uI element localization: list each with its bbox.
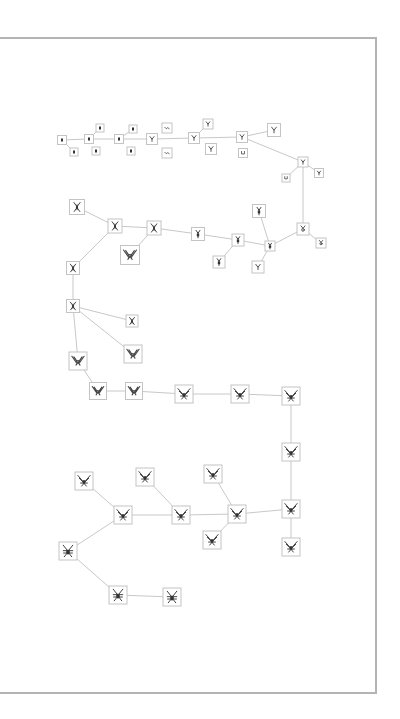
tree-node-spider[interactable]: [108, 219, 122, 233]
tree-node-bug[interactable]: [75, 472, 93, 490]
tree-node-wings[interactable]: [90, 383, 107, 400]
tree-node-stick[interactable]: [192, 228, 205, 241]
tree-node-dot[interactable]: [70, 148, 78, 156]
tree-node-dot[interactable]: [85, 135, 94, 144]
tree-node-wave[interactable]: [162, 123, 172, 133]
tree-node-dot[interactable]: [92, 147, 100, 155]
tree-node-bug[interactable]: [136, 468, 154, 486]
tree-node-dot[interactable]: [58, 136, 67, 145]
tree-node-dot[interactable]: [115, 135, 124, 144]
tree-node-stick[interactable]: [253, 205, 266, 218]
tree-node-y[interactable]: [237, 132, 248, 143]
tree-node-wings[interactable]: [121, 246, 140, 265]
tree-node-bug[interactable]: [204, 465, 222, 483]
creature-icon: [88, 138, 90, 141]
tree-edge: [194, 137, 242, 138]
tree-node-y[interactable]: [206, 144, 217, 155]
tree-node-y[interactable]: [315, 169, 324, 178]
node-box: [282, 174, 290, 182]
creature-icon: [61, 139, 63, 142]
tree-node-wings[interactable]: [126, 383, 143, 400]
tree-node-dot[interactable]: [129, 125, 137, 133]
node-box: [90, 383, 107, 400]
tree-node-wings[interactable]: [69, 352, 87, 370]
tree-node-bug[interactable]: [282, 538, 300, 556]
tree-node-beetle[interactable]: [163, 588, 181, 606]
tree-node-y[interactable]: [189, 133, 200, 144]
tree-node-y[interactable]: [203, 119, 213, 129]
tree-node-beetle[interactable]: [109, 586, 127, 604]
creature-icon: [73, 151, 75, 154]
node-box: [69, 352, 87, 370]
tree-node-y[interactable]: [147, 134, 158, 145]
tree-node-dot[interactable]: [127, 147, 135, 155]
tree-node-stick[interactable]: [232, 234, 244, 246]
tree-node-ring[interactable]: [297, 223, 309, 235]
tree-node-bug[interactable]: [203, 531, 221, 549]
tree-node-u[interactable]: [282, 174, 290, 182]
tree-node-beetle[interactable]: [59, 542, 77, 560]
creature-icon: [118, 138, 120, 141]
node-layer: [58, 119, 327, 606]
tree-node-bug[interactable]: [172, 506, 190, 524]
tree-node-y[interactable]: [298, 157, 308, 167]
tree-node-bug[interactable]: [114, 506, 132, 524]
node-box: [126, 383, 143, 400]
tree-edge: [242, 137, 303, 162]
creature-icon: [95, 150, 97, 153]
tree-node-bug[interactable]: [228, 505, 246, 523]
tree-node-bug[interactable]: [282, 500, 300, 518]
tree-node-spider[interactable]: [67, 262, 80, 275]
node-box: [121, 246, 140, 265]
tree-node-y[interactable]: [268, 124, 281, 137]
creature-icon: [99, 127, 101, 130]
tree-node-wings[interactable]: [124, 345, 142, 363]
tree-node-bug[interactable]: [231, 385, 249, 403]
tree-node-dot[interactable]: [96, 124, 104, 132]
tree-node-spider[interactable]: [147, 221, 161, 235]
tree-node-u[interactable]: [239, 149, 248, 158]
tree-node-spider[interactable]: [126, 315, 138, 327]
tree-node-stick[interactable]: [265, 241, 275, 251]
creature-icon: [132, 128, 134, 131]
tree-node-bug[interactable]: [282, 387, 300, 405]
creature-icon: [130, 150, 132, 153]
tree-node-ring[interactable]: [316, 238, 326, 248]
evolution-tree-canvas: [0, 0, 400, 719]
tree-node-y[interactable]: [252, 261, 264, 273]
node-box: [124, 345, 142, 363]
tree-edge: [152, 138, 194, 139]
tree-node-stick[interactable]: [213, 256, 225, 268]
node-box: [239, 149, 248, 158]
tree-node-spider[interactable]: [70, 200, 85, 215]
tree-node-bug[interactable]: [282, 443, 300, 461]
tree-node-wave[interactable]: [162, 148, 172, 158]
tree-node-spider[interactable]: [67, 300, 80, 313]
edge-layer: [62, 124, 321, 597]
tree-node-bug[interactable]: [175, 385, 193, 403]
